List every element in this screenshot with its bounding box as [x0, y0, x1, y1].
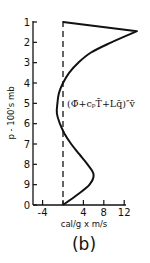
x-tick-label: 12: [118, 207, 131, 218]
x-tick-label: 4: [80, 207, 86, 218]
x-ticks: -44812: [38, 200, 131, 218]
panel-label: (b): [72, 234, 96, 254]
x-axis-title: cal/g x m/s: [61, 219, 108, 229]
y-tick-label: 0: [24, 200, 30, 211]
profile-curve: [57, 22, 137, 205]
y-tick-label: 9: [24, 179, 30, 190]
y-tick-label: 5: [24, 98, 30, 109]
y-tick-label: 3: [24, 57, 30, 68]
chart-figure: 1234567890 -44812 p - 100's mb (Φ̄+cₚT̄+…: [0, 0, 150, 263]
series-annotation: (Φ̄+cₚT̄+Lq̄)″v̄: [67, 98, 136, 109]
y-tick-label: 8: [24, 159, 30, 170]
y-ticks: 1234567890: [24, 17, 37, 211]
y-tick-label: 7: [24, 139, 30, 150]
y-tick-label: 2: [24, 37, 30, 48]
y-tick-label: 4: [24, 78, 30, 89]
x-tick-label: 8: [101, 207, 107, 218]
y-axis-title: p - 100's mb: [6, 86, 16, 139]
y-tick-label: 6: [24, 118, 30, 129]
x-tick-label: -4: [38, 207, 48, 218]
y-tick-label: 1: [24, 17, 30, 28]
